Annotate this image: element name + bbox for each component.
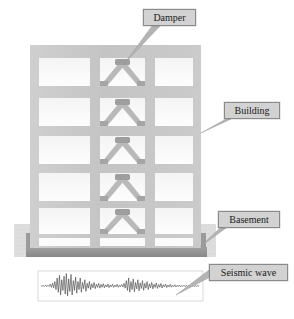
basement-story-row	[39, 238, 193, 246]
callout-basement[interactable]: Basement	[218, 211, 280, 228]
figure-seismic-damper-building: Damper Building Basement Seismic wave	[0, 0, 294, 319]
callout-seismic-wave[interactable]: Seismic wave	[209, 264, 288, 281]
callout-building[interactable]: Building	[224, 102, 280, 119]
seismic-wave-box	[38, 271, 203, 301]
callout-damper[interactable]: Damper	[143, 9, 196, 26]
leader-building	[201, 119, 231, 133]
